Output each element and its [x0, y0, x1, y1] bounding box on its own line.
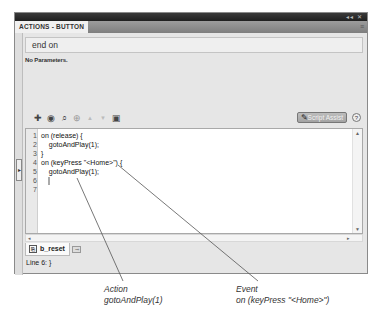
code-line: on (keyPress "<Home>") {: [41, 158, 122, 167]
event-callout: Event on (keyPress "<Home>"): [236, 284, 329, 306]
script-tab-row: ⎘ b_reset ⊸: [25, 243, 363, 256]
action-callout: Action gotoAndPlay(1): [104, 284, 163, 306]
line-number: 2: [26, 140, 37, 149]
code-line: gotoAndPlay(1);: [41, 140, 99, 149]
status-line: Line 6: }: [26, 259, 51, 266]
left-gutter: ▸: [15, 33, 23, 275]
code-hint-icon[interactable]: ▣: [111, 113, 121, 123]
help-icon[interactable]: ?: [352, 113, 361, 122]
pin-script-icon[interactable]: ⊸: [72, 246, 81, 253]
insert-target-path-icon[interactable]: ◉: [46, 113, 56, 123]
insert-target-icon[interactable]: ⊕: [72, 113, 82, 123]
scroll-left-icon[interactable]: ◂: [28, 235, 31, 241]
script-toolbar: ✚ ◉ ⌕ ⊕ ▲ ▼ ▣ ✎ Script Assist ?: [33, 112, 363, 126]
script-tab-b-reset[interactable]: ⎘ b_reset: [25, 243, 70, 256]
parameters-text: No Parameters.: [25, 57, 68, 63]
line-number: 5: [26, 167, 37, 176]
action-selector[interactable]: end on: [25, 37, 363, 53]
move-down-icon[interactable]: ▼: [98, 113, 108, 123]
tab-actions-button[interactable]: ACTIONS - BUTTON: [15, 21, 88, 33]
action-callout-detail: gotoAndPlay(1): [104, 295, 163, 306]
text-caret: [48, 177, 50, 185]
line-number: 4: [26, 158, 37, 167]
add-action-icon[interactable]: ✚: [33, 113, 43, 123]
line-number: 6: [26, 176, 37, 185]
move-up-icon[interactable]: ▲: [85, 113, 95, 123]
code-line: }: [41, 149, 43, 158]
event-callout-detail: on (keyPress "<Home>"): [236, 295, 329, 306]
find-icon[interactable]: ⌕: [59, 113, 69, 123]
line-number: 7: [26, 185, 37, 194]
panel-titlebar[interactable]: ◂◂ ✕: [15, 13, 367, 21]
event-callout-title: Event: [236, 284, 329, 295]
line-number-gutter: 1 2 3 4 5 6 7: [26, 129, 38, 233]
button-symbol-icon: ⎘: [29, 245, 37, 253]
script-assist-label: Script Assist: [308, 114, 343, 121]
actions-panel: ◂◂ ✕ ACTIONS - BUTTON ≡ ▸ end on No Para…: [14, 12, 368, 274]
action-selector-value: end on: [32, 40, 58, 50]
line-number: 3: [26, 149, 37, 158]
action-callout-title: Action: [104, 284, 163, 295]
panel-menu-icon[interactable]: ≡: [360, 22, 364, 32]
collapse-toolbox-handle[interactable]: ▸: [16, 159, 22, 181]
scroll-up-icon[interactable]: ▲: [353, 130, 362, 136]
script-editor[interactable]: 1 2 3 4 5 6 7 on (release) { gotoAndPlay…: [25, 128, 363, 234]
code-line: gotoAndPlay(1);: [41, 167, 99, 176]
horizontal-scrollbar[interactable]: ◂ ▸: [25, 234, 363, 242]
window-controls[interactable]: ◂◂ ✕: [346, 13, 363, 21]
line-number: 1: [26, 131, 37, 140]
script-tab-label: b_reset: [40, 245, 65, 252]
script-assist-button[interactable]: ✎ Script Assist: [297, 112, 347, 123]
code-line: on (release) {: [41, 131, 83, 140]
pencil-icon: ✎: [301, 113, 308, 122]
panel-tabstrip: ACTIONS - BUTTON ≡: [15, 21, 367, 33]
scroll-down-icon[interactable]: ▼: [353, 226, 362, 232]
scroll-right-icon[interactable]: ▸: [347, 235, 350, 241]
vertical-scrollbar[interactable]: ▲ ▼: [352, 129, 362, 233]
